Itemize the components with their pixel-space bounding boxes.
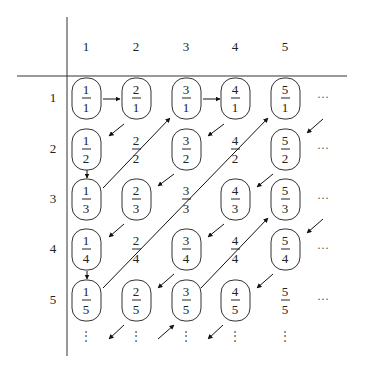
svg-text:1: 1 bbox=[83, 100, 90, 115]
arrow-into-5-2 bbox=[307, 119, 323, 133]
arrow-into-3-5 bbox=[158, 325, 174, 339]
svg-text:3: 3 bbox=[183, 284, 190, 299]
svg-text:1: 1 bbox=[83, 233, 90, 248]
fraction-4-2: 42 bbox=[231, 133, 240, 166]
svg-text:1: 1 bbox=[282, 100, 289, 115]
svg-text:2: 2 bbox=[183, 151, 190, 166]
fraction-2-3: 23 bbox=[132, 183, 141, 216]
fraction-1-5: 15 bbox=[82, 284, 91, 317]
fraction-5-3: 53 bbox=[281, 183, 290, 216]
fraction-4-5: 45 bbox=[231, 284, 240, 317]
svg-text:4: 4 bbox=[232, 183, 239, 198]
column-header: 5 bbox=[282, 39, 289, 54]
svg-text:5: 5 bbox=[133, 302, 140, 317]
svg-text:2: 2 bbox=[232, 151, 239, 166]
svg-text:3: 3 bbox=[183, 133, 190, 148]
vertical-ellipsis-icon: ⋮ bbox=[180, 329, 192, 343]
arrow-2-3-to-1-4 bbox=[109, 224, 124, 237]
svg-text:3: 3 bbox=[183, 82, 190, 97]
svg-text:5: 5 bbox=[282, 233, 289, 248]
svg-text:3: 3 bbox=[282, 201, 289, 216]
row-header: 3 bbox=[50, 191, 57, 206]
ellipsis-icon: ··· bbox=[317, 191, 329, 205]
arrow-1-3-to-3-1 bbox=[103, 118, 170, 188]
vertical-ellipsis-icon: ⋮ bbox=[80, 329, 92, 343]
fraction-1-3: 13 bbox=[82, 183, 91, 216]
arrow-4-5-out bbox=[208, 325, 223, 339]
ellipsis-icon: ··· bbox=[317, 141, 329, 155]
svg-text:1: 1 bbox=[83, 183, 90, 198]
arrow-3-2-to-2-3 bbox=[158, 174, 174, 186]
svg-text:2: 2 bbox=[133, 183, 140, 198]
column-header: 2 bbox=[133, 39, 140, 54]
fraction-4-1: 41 bbox=[231, 82, 240, 115]
svg-text:1: 1 bbox=[183, 100, 190, 115]
svg-text:3: 3 bbox=[133, 201, 140, 216]
fraction-3-5: 35 bbox=[182, 284, 191, 317]
column-header: 1 bbox=[83, 39, 90, 54]
arrow-2-1-to-1-2 bbox=[109, 124, 124, 136]
row-header: 2 bbox=[50, 141, 57, 156]
fraction-5-1: 51 bbox=[281, 82, 290, 115]
svg-text:4: 4 bbox=[183, 251, 190, 266]
fraction-1-1: 11 bbox=[82, 82, 91, 115]
diagram-canvas: 1 2 3 4 5 1 2 3 4 5 bbox=[0, 0, 366, 376]
svg-text:4: 4 bbox=[232, 284, 239, 299]
arrow-3-5-to-5-3 bbox=[201, 218, 268, 288]
column-header: 4 bbox=[232, 39, 239, 54]
fraction-1-2: 12 bbox=[82, 133, 91, 166]
svg-text:1: 1 bbox=[83, 284, 90, 299]
svg-text:5: 5 bbox=[282, 82, 289, 97]
svg-text:2: 2 bbox=[133, 284, 140, 299]
column-header: 3 bbox=[183, 39, 190, 54]
fraction-4-4: 44 bbox=[231, 233, 240, 266]
fraction-3-2: 32 bbox=[182, 133, 191, 166]
svg-text:1: 1 bbox=[83, 82, 90, 97]
fraction-5-2: 52 bbox=[281, 133, 290, 166]
cantor-diagram: 1 2 3 4 5 1 2 3 4 5 bbox=[0, 0, 366, 376]
svg-text:4: 4 bbox=[232, 133, 239, 148]
fraction-4-3: 43 bbox=[231, 183, 240, 216]
svg-text:1: 1 bbox=[83, 133, 90, 148]
fraction-3-4: 34 bbox=[182, 233, 191, 266]
svg-text:5: 5 bbox=[282, 284, 289, 299]
svg-text:3: 3 bbox=[183, 233, 190, 248]
svg-text:2: 2 bbox=[83, 151, 90, 166]
row-headers: 1 2 3 4 5 bbox=[50, 90, 57, 307]
vertical-ellipsis-icon: ⋮ bbox=[279, 329, 291, 343]
arrow-3-4-to-2-5 bbox=[158, 274, 174, 288]
row-header: 1 bbox=[50, 90, 57, 105]
svg-text:4: 4 bbox=[83, 251, 90, 266]
vertical-ellipsis-icon: ⋮ bbox=[130, 329, 142, 343]
svg-text:3: 3 bbox=[183, 183, 190, 198]
svg-text:5: 5 bbox=[83, 302, 90, 317]
fraction-3-1: 31 bbox=[182, 82, 191, 115]
svg-text:4: 4 bbox=[282, 251, 289, 266]
arrow-4-3-to-3-4 bbox=[208, 224, 224, 237]
fraction-2-5: 25 bbox=[132, 284, 141, 317]
svg-text:4: 4 bbox=[232, 82, 239, 97]
svg-text:1: 1 bbox=[232, 100, 239, 115]
svg-text:1: 1 bbox=[133, 100, 140, 115]
arrow-5-2-to-4-3 bbox=[257, 174, 273, 187]
vertical-ellipsis-icon: ⋮ bbox=[229, 329, 241, 343]
svg-text:5: 5 bbox=[232, 302, 239, 317]
svg-text:2: 2 bbox=[133, 82, 140, 97]
svg-text:2: 2 bbox=[133, 133, 140, 148]
ellipsis-icon: ··· bbox=[317, 292, 329, 306]
svg-text:3: 3 bbox=[183, 201, 190, 216]
fraction-1-4: 14 bbox=[82, 233, 91, 266]
row-header: 4 bbox=[50, 241, 57, 256]
fraction-5-4: 54 bbox=[281, 233, 290, 266]
fraction-2-4: 24 bbox=[132, 233, 141, 266]
svg-text:5: 5 bbox=[282, 133, 289, 148]
svg-text:2: 2 bbox=[133, 233, 140, 248]
arrow-2-5-out bbox=[109, 325, 124, 339]
arrow-into-5-4 bbox=[307, 219, 323, 233]
svg-text:4: 4 bbox=[232, 233, 239, 248]
svg-text:3: 3 bbox=[83, 201, 90, 216]
svg-text:4: 4 bbox=[232, 251, 239, 266]
row-header: 5 bbox=[50, 292, 57, 307]
fraction-2-1: 21 bbox=[132, 82, 141, 115]
ellipsis-icon: ··· bbox=[317, 241, 329, 255]
